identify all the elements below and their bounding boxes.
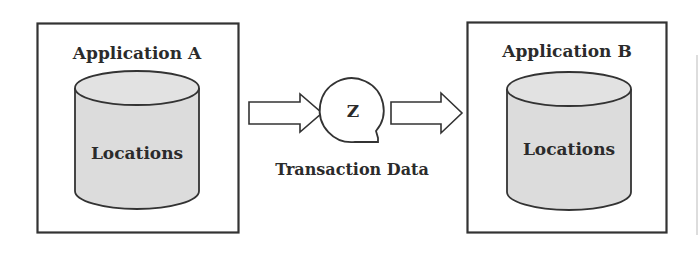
process-symbol: Z [347,101,359,121]
application-a-store-label: Locations [91,143,183,163]
arrow-right-icon [249,94,322,132]
application-b-store-label: Locations [523,139,615,159]
application-b-title: Application B [501,41,632,61]
database-cylinder-a-icon [75,71,199,209]
application-a: Application A Locations [38,24,239,233]
application-a-title: Application A [72,43,202,63]
arrow-right-icon [391,93,462,133]
diagram-canvas: Application A Locations Z Transaction Da… [0,0,698,253]
transfer-caption: Transaction Data [275,160,429,179]
application-b: Application B Locations [468,23,667,233]
process-circle-icon: Z [320,78,384,142]
